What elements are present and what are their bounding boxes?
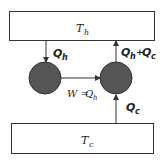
qh-label: Q — [53, 47, 62, 60]
qc-subscript: c — [135, 107, 140, 116]
hot-reservoir: T h — [10, 12, 155, 41]
qh-down-arrow: Q h — [46, 41, 68, 62]
left-engine-circle — [29, 62, 61, 94]
work-subscript: h — [93, 94, 98, 102]
sum-up-arrow: Q h + Q c — [116, 41, 156, 62]
cold-reservoir: T c — [12, 124, 154, 154]
cold-reservoir-subscript: c — [89, 140, 94, 149]
sum-q2-subscript: c — [151, 52, 156, 61]
qc-up-arrow: Q c — [116, 95, 140, 123]
work-q-label: Q — [85, 88, 93, 99]
diagram-canvas: T h T c Q h W = Q h Q h + Q c Q c — [0, 0, 164, 165]
qh-subscript: h — [62, 53, 68, 62]
sum-q1-label: Q — [121, 46, 130, 59]
hot-reservoir-subscript: h — [84, 28, 89, 37]
qc-label: Q — [126, 101, 135, 114]
right-engine-circle — [100, 62, 132, 94]
sum-q2-label: Q — [142, 46, 151, 59]
work-arrow: W = Q h — [61, 78, 100, 102]
